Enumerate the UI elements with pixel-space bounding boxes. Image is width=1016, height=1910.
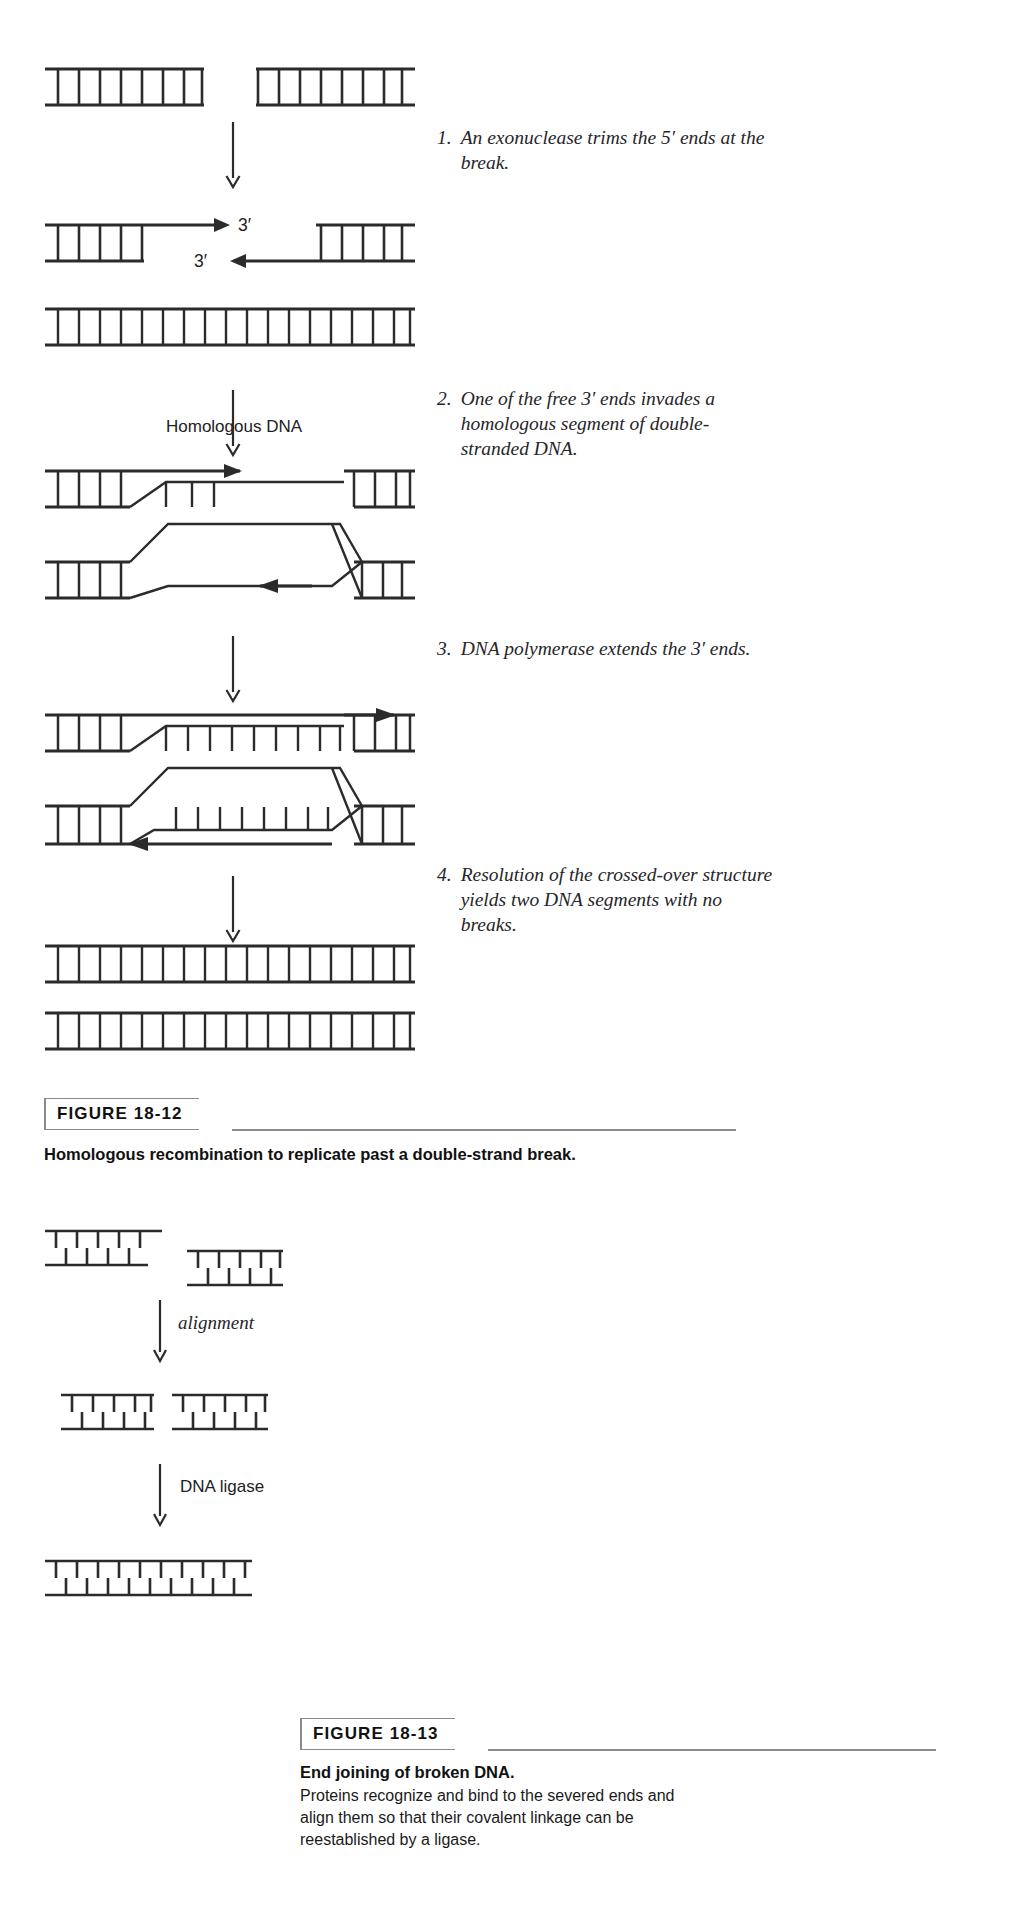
fig1812-panel-resolved-duplex-1	[44, 943, 416, 985]
figure-18-13-label-box: FIGURE 18-13	[300, 1718, 455, 1750]
figure-18-12-label-box: FIGURE 18-12	[44, 1098, 199, 1130]
step-2-number: 2.	[437, 386, 452, 461]
fig1813-panel-broken-ends	[44, 1228, 284, 1290]
label-three-prime-top: 3′	[238, 215, 251, 236]
fig1812-flow-arrow-3	[222, 636, 244, 702]
step-3-annotation: 3. DNA polymerase extends the 3′ ends.	[437, 636, 782, 661]
figure-18-12-title: Homologous recombination to replicate pa…	[44, 1145, 736, 1164]
label-dna-ligase: DNA ligase	[180, 1477, 264, 1497]
step-1-annotation: 1. An exonuclease trims the 5′ ends at t…	[437, 125, 767, 175]
label-alignment: alignment	[178, 1312, 254, 1334]
fig1813-panel-aligned-ends	[60, 1392, 272, 1440]
figure-18-13-caption: FIGURE 18-13 End joining of broken DNA. …	[300, 1718, 936, 1851]
step-3-text: DNA polymerase extends the 3′ ends.	[461, 636, 782, 661]
figure-18-12-caption: FIGURE 18-12 Homologous recombination to…	[44, 1098, 736, 1164]
step-4-annotation: 4. Resolution of the crossed-over struct…	[437, 862, 782, 937]
step-1-number: 1.	[437, 125, 452, 175]
step-2-annotation: 2. One of the free 3′ ends invades a hom…	[437, 386, 777, 461]
fig1813-panel-joined-duplex	[44, 1558, 256, 1606]
figure-18-13-title: End joining of broken DNA.	[300, 1763, 936, 1782]
fig1812-panel-homologous-duplex	[44, 306, 416, 348]
fig1812-panel-extended-crossover	[44, 712, 416, 848]
step-4-number: 4.	[437, 862, 452, 937]
fig1812-panel-resolved-duplex-2	[44, 1010, 416, 1052]
step-3-number: 3.	[437, 636, 452, 661]
figure-18-13-body: Proteins recognize and bind to the sever…	[300, 1785, 700, 1851]
label-three-prime-bottom: 3′	[194, 251, 207, 272]
step-2-text: One of the free 3′ ends invades a homolo…	[461, 386, 777, 461]
fig1812-panel-broken-duplexes	[44, 66, 416, 108]
fig1812-panel-resected-ends	[44, 222, 416, 282]
figure-18-12-label: FIGURE 18-12	[57, 1104, 183, 1123]
fig1812-flow-arrow-1	[222, 122, 244, 188]
fig1813-ligase-arrow	[150, 1464, 170, 1526]
fig1812-flow-arrow-2	[222, 390, 244, 456]
figure-18-12-rule	[232, 1129, 736, 1131]
step-1-text: An exonuclease trims the 5′ ends at the …	[461, 125, 767, 175]
fig1812-panel-strand-invasion	[44, 468, 416, 602]
figure-18-13-label: FIGURE 18-13	[313, 1724, 439, 1743]
fig1812-flow-arrow-4	[222, 876, 244, 942]
figure-18-13-rule	[488, 1749, 936, 1751]
step-4-text: Resolution of the crossed-over structure…	[461, 862, 782, 937]
fig1813-alignment-arrow	[150, 1300, 170, 1362]
